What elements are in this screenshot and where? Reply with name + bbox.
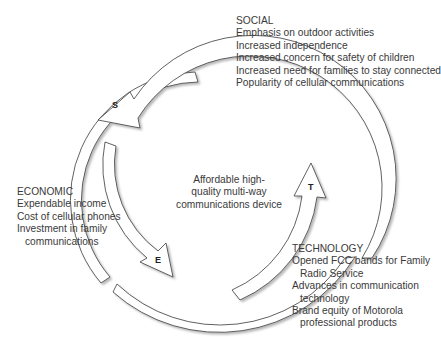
economic-heading: ECONOMIC <box>17 186 121 198</box>
economic-item: Investment in family <box>17 223 121 235</box>
technology-item: Radio Service <box>292 268 430 280</box>
social-item: Emphasis on outdoor activities <box>236 27 441 39</box>
social-arrow-letter: S <box>112 100 118 110</box>
economic-item: Cost of cellular phones <box>17 211 121 223</box>
center-product-description: Affordable high- quality multi-way commu… <box>163 174 295 211</box>
economic-item: communications <box>17 236 121 248</box>
social-heading: SOCIAL <box>236 15 441 27</box>
social-item: Increased need for families to stay conn… <box>236 65 441 77</box>
technology-item: Advances in communication <box>292 280 430 292</box>
technology-item: Brand equity of Motorola <box>292 305 430 317</box>
economic-arrow-letter: E <box>155 255 161 265</box>
technology-item: professional products <box>292 317 430 329</box>
social-factors: SOCIAL Emphasis on outdoor activities In… <box>236 15 441 89</box>
technology-factors: TECHNOLOGY Opened FCC bands for Family R… <box>292 243 430 330</box>
technology-heading: TECHNOLOGY <box>292 243 430 255</box>
economic-factors: ECONOMIC Expendable income Cost of cellu… <box>17 186 121 248</box>
technology-item: technology <box>292 293 430 305</box>
economic-item: Expendable income <box>17 198 121 210</box>
center-line: quality multi-way <box>163 186 295 198</box>
technology-item: Opened FCC bands for Family <box>292 255 430 267</box>
center-line: communications device <box>163 199 295 211</box>
social-item: Increased concern for safety of children <box>236 52 441 64</box>
social-item: Increased independence <box>236 40 441 52</box>
center-line: Affordable high- <box>163 174 295 186</box>
social-item: Popularity of cellular communications <box>236 77 441 89</box>
technology-arrow-letter: T <box>308 182 314 192</box>
